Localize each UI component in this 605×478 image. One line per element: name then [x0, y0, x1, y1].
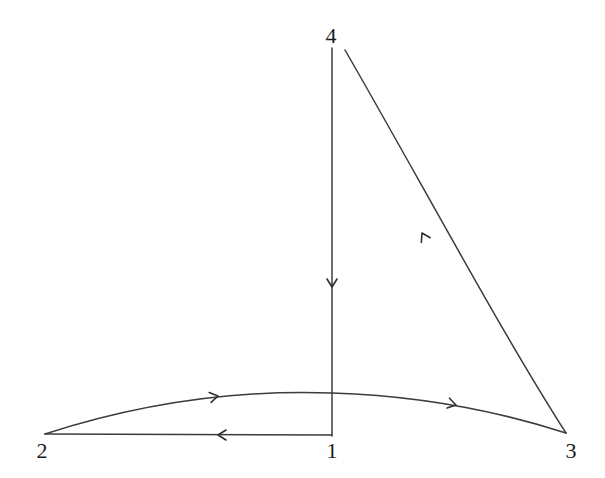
graph-svg	[0, 0, 605, 478]
node-label-2: 2	[37, 440, 48, 462]
edge-3-to-4	[345, 50, 566, 433]
edge-1-to-2	[45, 434, 332, 435]
edge-2-to-3	[45, 392, 566, 434]
diagram-canvas: 1 2 3 4	[0, 0, 605, 478]
node-label-3: 3	[566, 440, 577, 462]
node-label-4: 4	[326, 25, 337, 47]
arrowhead-edge-3-to-4	[418, 231, 431, 243]
node-label-1: 1	[327, 440, 338, 462]
